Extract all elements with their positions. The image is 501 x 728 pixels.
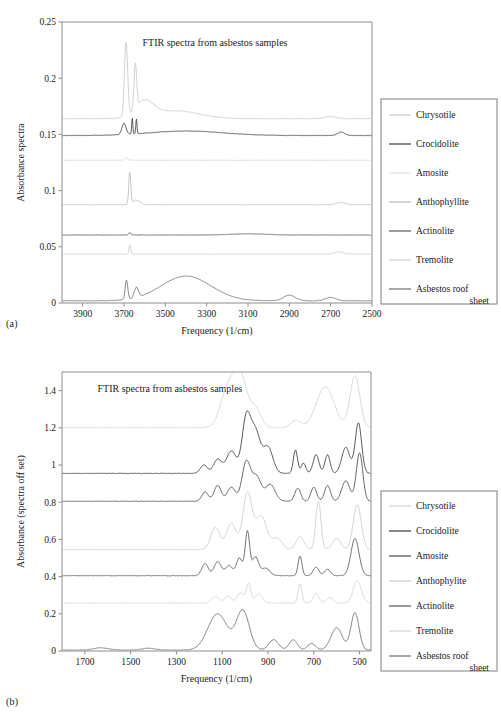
svg-text:500: 500 xyxy=(352,657,367,667)
svg-text:3900: 3900 xyxy=(73,309,92,319)
panel-b: 00.20.40.60.811.21.417001500130011009007… xyxy=(0,352,501,728)
svg-text:0.25: 0.25 xyxy=(39,17,56,27)
spectrum-line xyxy=(62,610,371,651)
svg-text:1: 1 xyxy=(51,460,56,470)
svg-text:0.05: 0.05 xyxy=(39,242,56,252)
spectrum-line xyxy=(62,492,371,550)
legend-label[interactable]: Anthophylite xyxy=(416,576,466,586)
legend-label-cont: sheet xyxy=(469,296,489,306)
svg-text:0: 0 xyxy=(51,646,56,656)
svg-text:0: 0 xyxy=(51,298,56,308)
legend-label[interactable]: Asbestos roof xyxy=(416,651,469,661)
svg-text:0.4: 0.4 xyxy=(44,572,56,582)
svg-text:1700: 1700 xyxy=(75,657,94,667)
svg-text:Frequency (1/cm): Frequency (1/cm) xyxy=(181,673,252,685)
svg-text:Absorbance spectra: Absorbance spectra xyxy=(15,123,26,202)
svg-text:0.2: 0.2 xyxy=(44,609,56,619)
legend-label-cont: sheet xyxy=(469,663,489,673)
legend-label[interactable]: Actinolite xyxy=(416,601,454,611)
panel-a: 00.050.10.150.20.25390037003500330031002… xyxy=(0,0,501,352)
svg-text:0.15: 0.15 xyxy=(39,130,56,140)
svg-text:2900: 2900 xyxy=(280,309,299,319)
panel-a-label: (a) xyxy=(6,318,18,329)
svg-text:0.2: 0.2 xyxy=(44,74,56,84)
legend-label[interactable]: Crocidolite xyxy=(416,139,459,149)
legend-label[interactable]: Amosite xyxy=(416,551,448,561)
svg-text:2700: 2700 xyxy=(321,309,340,319)
spectrum-line xyxy=(62,368,371,428)
spectrum-line xyxy=(62,411,371,474)
svg-text:1100: 1100 xyxy=(213,657,232,667)
svg-text:3100: 3100 xyxy=(239,309,258,319)
svg-text:1.4: 1.4 xyxy=(44,386,56,396)
svg-text:1300: 1300 xyxy=(167,657,186,667)
chart-b: 00.20.40.60.811.21.417001500130011009007… xyxy=(0,352,501,728)
svg-text:0.1: 0.1 xyxy=(44,186,56,196)
svg-text:3500: 3500 xyxy=(156,309,175,319)
svg-text:Frequency (1/cm): Frequency (1/cm) xyxy=(181,325,252,337)
spectrum-line xyxy=(62,118,372,135)
spectrum-line xyxy=(62,172,372,204)
svg-text:Absorbance (spectra off set): Absorbance (spectra off set) xyxy=(15,455,27,568)
svg-text:0.8: 0.8 xyxy=(44,498,56,508)
svg-text:700: 700 xyxy=(307,657,322,667)
legend-label[interactable]: Anthophyllite xyxy=(416,197,469,207)
chart-a: 00.050.10.150.20.25390037003500330031002… xyxy=(0,0,501,352)
svg-text:1500: 1500 xyxy=(121,657,140,667)
spectrum-line xyxy=(62,158,372,160)
spectrum-line xyxy=(62,276,372,301)
legend-label[interactable]: Amosite xyxy=(416,168,448,178)
legend-label[interactable]: Asbestos roof xyxy=(416,284,469,294)
spectrum-line xyxy=(62,581,371,604)
svg-text:900: 900 xyxy=(261,657,276,667)
svg-text:2500: 2500 xyxy=(363,309,382,319)
legend-label[interactable]: Crocidolite xyxy=(416,526,459,536)
ftir-figure: 00.050.10.150.20.25390037003500330031002… xyxy=(0,0,501,728)
svg-text:FTIR spectra from asbestos sam: FTIR spectra from asbestos samples xyxy=(98,383,243,394)
legend-label[interactable]: Chrysotile xyxy=(416,110,456,120)
spectrum-line xyxy=(62,42,372,119)
legend-label[interactable]: Chrysotile xyxy=(416,501,456,511)
svg-text:FTIR spectra from asbestos sam: FTIR spectra from asbestos samples xyxy=(143,37,288,48)
svg-text:3300: 3300 xyxy=(197,309,216,319)
spectrum-line xyxy=(62,531,371,576)
panel-b-label: (b) xyxy=(6,696,18,707)
legend-label[interactable]: Tremolite xyxy=(416,626,453,636)
legend-label[interactable]: Tremolite xyxy=(416,255,453,265)
spectrum-line xyxy=(62,245,372,254)
svg-text:1.2: 1.2 xyxy=(44,423,56,433)
spectrum-line xyxy=(62,233,372,236)
svg-text:0.6: 0.6 xyxy=(44,535,56,545)
svg-text:3700: 3700 xyxy=(115,309,134,319)
legend-label[interactable]: Actinolite xyxy=(416,226,454,236)
